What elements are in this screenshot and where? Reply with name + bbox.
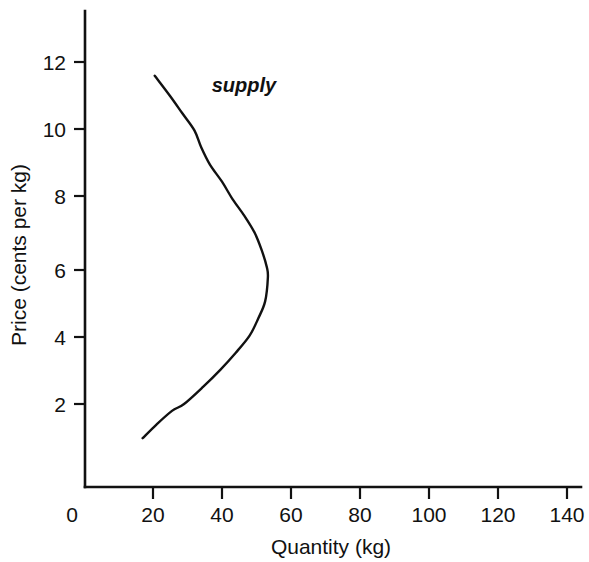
x-tick-label-100: 100	[411, 503, 446, 526]
y-tick-label-4: 4	[54, 326, 66, 349]
x-tick-label-40: 40	[210, 503, 233, 526]
chart-background	[0, 0, 589, 562]
chart-canvas: 12 10 8 6 4 2 0 20 40 60 80 100 120 140 …	[0, 0, 589, 562]
x-tick-label-0: 0	[66, 503, 78, 526]
y-tick-label-8: 8	[54, 185, 66, 208]
x-tick-label-60: 60	[279, 503, 302, 526]
x-tick-label-20: 20	[141, 503, 164, 526]
x-axis-title: Quantity (kg)	[271, 535, 391, 558]
y-tick-label-10: 10	[43, 118, 66, 141]
y-tick-label-12: 12	[43, 51, 66, 74]
y-tick-label-2: 2	[54, 393, 66, 416]
supply-curve-label: supply	[212, 74, 277, 96]
y-axis-title: Price (cents per kg)	[7, 164, 30, 346]
y-tick-label-6: 6	[54, 259, 66, 282]
x-tick-label-120: 120	[480, 503, 515, 526]
x-tick-label-140: 140	[549, 503, 584, 526]
supply-curve-figure: 12 10 8 6 4 2 0 20 40 60 80 100 120 140 …	[0, 0, 589, 562]
x-tick-label-80: 80	[348, 503, 371, 526]
